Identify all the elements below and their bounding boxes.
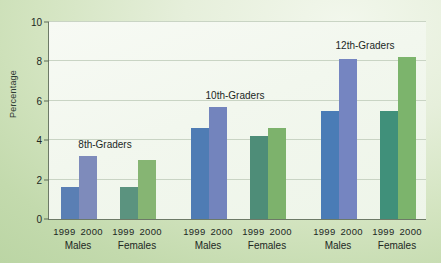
x-years-row: 1999 2000 xyxy=(313,226,363,237)
x-year-1999: 1999 xyxy=(242,226,264,237)
x-axis-group-1-0: 1999 2000Males xyxy=(183,226,233,251)
y-tick-mark-6 xyxy=(44,100,49,101)
x-sex-label: Females xyxy=(372,240,422,251)
x-year-1999: 1999 xyxy=(183,226,205,237)
x-axis-group-0-1: 1999 2000Females xyxy=(112,226,162,251)
x-year-2000: 2000 xyxy=(140,226,162,237)
x-year-1999: 1999 xyxy=(53,226,75,237)
x-sex-label: Females xyxy=(242,240,292,251)
x-year-2000: 2000 xyxy=(400,226,422,237)
x-year-1999: 1999 xyxy=(313,226,335,237)
y-tick-mark-0 xyxy=(44,219,49,220)
x-sex-label: Males xyxy=(53,240,103,251)
y-tick-mark-8 xyxy=(44,61,49,62)
x-axis-labels: 1999 2000Males1999 2000Females1999 2000M… xyxy=(0,0,441,263)
x-years-row: 1999 2000 xyxy=(242,226,292,237)
x-sex-label: Males xyxy=(183,240,233,251)
y-tick-mark-10 xyxy=(44,22,49,23)
y-tick-mark-4 xyxy=(44,140,49,141)
y-tick-mark-2 xyxy=(44,179,49,180)
x-year-1999: 1999 xyxy=(372,226,394,237)
x-years-row: 1999 2000 xyxy=(183,226,233,237)
x-year-1999: 1999 xyxy=(112,226,134,237)
x-axis-group-0-0: 1999 2000Males xyxy=(53,226,103,251)
x-year-2000: 2000 xyxy=(341,226,363,237)
x-years-row: 1999 2000 xyxy=(112,226,162,237)
x-years-row: 1999 2000 xyxy=(53,226,103,237)
x-sex-label: Males xyxy=(313,240,363,251)
x-year-2000: 2000 xyxy=(81,226,103,237)
x-year-2000: 2000 xyxy=(270,226,292,237)
x-axis-group-1-1: 1999 2000Females xyxy=(242,226,292,251)
x-axis-group-2-1: 1999 2000Females xyxy=(372,226,422,251)
x-sex-label: Females xyxy=(112,240,162,251)
x-year-2000: 2000 xyxy=(211,226,233,237)
x-years-row: 1999 2000 xyxy=(372,226,422,237)
x-axis-group-2-0: 1999 2000Males xyxy=(313,226,363,251)
bar-chart-figure: Percentage 0246810 8th-Graders10th-Grade… xyxy=(0,0,441,263)
